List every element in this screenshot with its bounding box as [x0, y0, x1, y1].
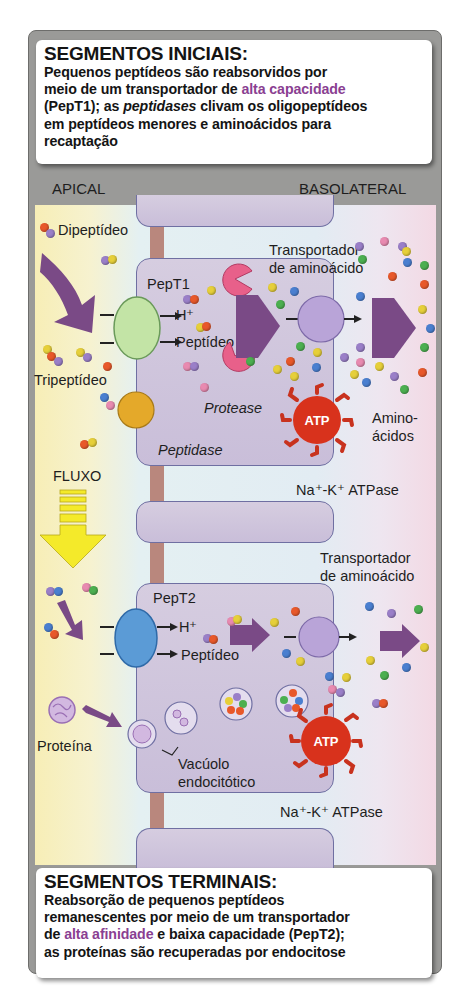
initial-segments-box: SEGMENTOS INICIAIS: Pequenos peptídeos s…	[36, 40, 432, 164]
aa-transporter-label-line1: Transportador	[320, 550, 411, 566]
protein-icon	[45, 695, 80, 725]
endocytic-vesicle-icon	[126, 718, 158, 750]
endocytic-vacuole-icon	[163, 700, 199, 736]
high-affinity-highlight: alta afinidade	[64, 926, 153, 942]
pept2-transporter-icon	[100, 600, 180, 680]
peptidase-enzyme-icon	[114, 390, 158, 430]
atpase-label: Na⁺-K⁺ ATPase	[296, 482, 399, 498]
svg-text:ATP: ATP	[313, 734, 338, 749]
h-ion-label: H⁺	[176, 307, 194, 323]
terminal-segments-box: SEGMENTOS TERMINAIS: Reabsorção de peque…	[36, 868, 432, 978]
apical-label: APICAL	[52, 180, 105, 197]
atpase-label: Na⁺-K⁺ ATPase	[280, 804, 383, 820]
amino-acid-transporter-icon	[284, 610, 364, 665]
h-ion-label: H⁺	[179, 619, 197, 635]
initial-segments-description: Pequenos peptídeos são reabsorvidos por …	[44, 64, 424, 150]
flow-label: FLUXO	[53, 468, 101, 484]
initial-segments-title: SEGMENTOS INICIAIS:	[44, 44, 424, 64]
aa-transporter-label-line1: Transportador	[269, 242, 360, 258]
tight-junction	[150, 790, 164, 830]
svg-text:ATP: ATP	[304, 413, 329, 428]
aa-transporter-label-line2: de aminoácido	[320, 568, 414, 584]
digestive-vacuole-icon	[218, 686, 254, 722]
tight-junction	[150, 540, 164, 585]
amino-acids-label-line1: Amino-	[372, 410, 418, 426]
aa-transporter-label-line2: de aminoácido	[269, 260, 363, 276]
middle-epithelial-cell	[136, 501, 334, 543]
pept1-transporter-icon	[100, 290, 180, 360]
tight-junction	[150, 460, 164, 505]
epithelial-cell-top-partial	[136, 195, 334, 227]
dipeptide-label: Dipeptídeo	[58, 222, 128, 238]
curved-arrow-icon	[55, 600, 90, 640]
flow-arrow-icon	[372, 290, 422, 362]
curved-arrow-icon	[40, 250, 100, 335]
high-capacity-highlight: alta capacidade	[241, 81, 345, 97]
na-k-atpase-icon: ATP	[282, 385, 352, 455]
amino-acid-transporter-icon	[286, 292, 366, 347]
arrow-icon	[82, 705, 124, 730]
terminal-segments-description: Reabsorção de pequenos peptídeos remanes…	[44, 892, 424, 961]
pept1-label: PepT1	[147, 276, 190, 292]
epithelial-cell-bottom-partial	[136, 828, 334, 868]
flow-arrow-icon	[380, 624, 422, 658]
protein-label: Proteína	[37, 738, 92, 754]
tripeptide-label: Tripeptídeo	[34, 372, 107, 388]
amino-acids-label-line2: ácidos	[372, 428, 414, 444]
flow-direction-arrow-icon	[44, 490, 110, 570]
protease-label: Protease	[204, 400, 262, 416]
vacuole-label-line2: endocitótico	[178, 774, 255, 790]
terminal-segments-title: SEGMENTOS TERMINAIS:	[44, 872, 424, 892]
pept2-label: PepT2	[153, 590, 196, 606]
tight-junction	[150, 225, 164, 260]
vacuole-label-line1: Vacúolo	[178, 756, 229, 772]
na-k-atpase-icon: ATP	[290, 705, 362, 777]
peptidase-label: Peptidase	[158, 442, 223, 458]
